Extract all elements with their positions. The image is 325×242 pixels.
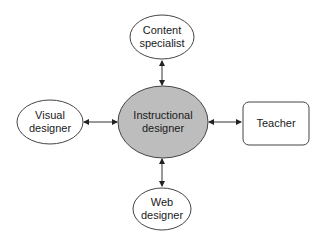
label-visual-designer: Visual designer <box>29 109 71 135</box>
label-line: designer <box>141 209 183 222</box>
label-line: Instructional <box>133 109 192 122</box>
label-line: Visual <box>29 109 71 122</box>
label-instructional-designer: Instructional designer <box>133 109 192 135</box>
label-web-designer: Web designer <box>141 196 183 222</box>
label-line: Content <box>139 24 184 37</box>
label-teacher: Teacher <box>256 117 295 130</box>
label-line: designer <box>29 122 71 135</box>
label-line: specialist <box>139 37 184 50</box>
label-line: designer <box>133 122 192 135</box>
label-line: Web <box>141 196 183 209</box>
label-line: Teacher <box>256 117 295 130</box>
label-content-specialist: Content specialist <box>139 24 184 50</box>
